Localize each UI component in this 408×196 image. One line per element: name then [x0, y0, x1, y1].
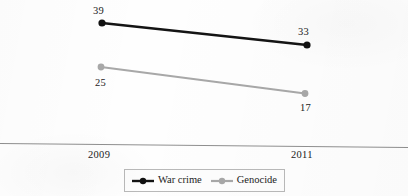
data-point-war-crime-2009[interactable] — [98, 19, 105, 26]
data-label-genocide-2009: 25 — [95, 78, 106, 89]
line-marker-icon — [211, 176, 233, 186]
x-axis-line — [0, 144, 408, 148]
plot-area — [0, 0, 408, 196]
data-point-war-crime-2011[interactable] — [303, 41, 310, 48]
legend-label-war-crime: War crime — [158, 175, 202, 186]
legend: War crime Genocide — [124, 169, 285, 192]
x-axis-tick-2009: 2009 — [88, 150, 110, 161]
series-line-war-crime — [102, 23, 307, 45]
series-line-genocide — [101, 67, 305, 94]
data-label-war-crime-2009: 39 — [93, 6, 104, 17]
legend-item-war-crime[interactable]: War crime — [132, 175, 202, 186]
x-axis-tick-2011: 2011 — [291, 150, 313, 161]
data-label-genocide-2011: 17 — [300, 103, 311, 114]
line-marker-icon — [132, 176, 154, 186]
line-chart: 39 33 25 17 2009 2011 War crime Genocide — [0, 0, 408, 196]
data-point-genocide-2011[interactable] — [302, 90, 309, 97]
legend-item-genocide[interactable]: Genocide — [211, 175, 277, 186]
legend-label-genocide: Genocide — [237, 175, 277, 186]
data-point-genocide-2009[interactable] — [98, 64, 105, 71]
data-label-war-crime-2011: 33 — [298, 27, 309, 38]
